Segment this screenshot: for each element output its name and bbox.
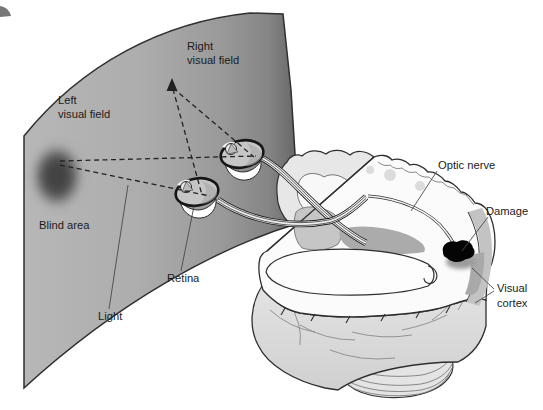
label-left-visual-field-line1: Left [58, 94, 78, 106]
label-right-visual-field-line2: visual field [187, 54, 239, 66]
gray-speckle-1 [384, 169, 396, 181]
page-corner-artifact [0, 6, 11, 17]
label-optic-nerve: Optic nerve [438, 159, 495, 171]
gray-speckle-2 [415, 181, 425, 191]
label-left-visual-field-line2: visual field [58, 108, 110, 120]
gray-speckle-3 [366, 166, 374, 174]
diagram-canvas: Left visual field Right visual field Bli… [0, 0, 543, 410]
blind-area-spot [31, 143, 83, 209]
brain [252, 150, 495, 397]
label-light: Light [98, 310, 123, 322]
label-blind-area: Blind area [39, 219, 90, 231]
label-visual-cortex-line1: Visual [497, 282, 527, 294]
label-right-visual-field-line1: Right [187, 40, 214, 52]
damage-site [443, 240, 476, 269]
label-visual-cortex-line2: cortex [497, 297, 528, 309]
figure-visual-pathway-diagram: Left visual field Right visual field Bli… [0, 0, 543, 410]
label-retina: Retina [167, 272, 200, 284]
label-damage: Damage [486, 205, 528, 217]
